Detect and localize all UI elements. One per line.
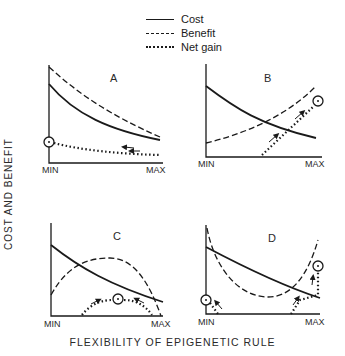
x-min-label: MIN <box>198 317 215 327</box>
panel-label: C <box>113 230 121 242</box>
diagram-panels: A MIN MAX B MIN MAX C MIN MAX <box>0 0 345 356</box>
panel-b: B MIN MAX <box>198 64 325 169</box>
x-min-label: MIN <box>198 159 215 169</box>
cost-curve <box>206 247 320 298</box>
panel-label: B <box>264 72 271 84</box>
x-axis-label: FLEXIBILITY OF EPIGENETIC RULE <box>0 336 345 348</box>
net-gain-curve-left <box>210 303 218 314</box>
arrow-icon <box>216 302 222 309</box>
y-axis-label: COST AND BENEFIT <box>3 138 14 250</box>
panel-label: D <box>268 232 276 244</box>
panel-d: D MIN MAX <box>198 225 325 327</box>
axes <box>49 65 163 163</box>
arrow-icon <box>269 135 277 142</box>
x-max-label: MAX <box>146 165 166 175</box>
x-max-label: MAX <box>305 159 325 169</box>
x-max-label: MAX <box>305 317 325 327</box>
panel-a: A MIN MAX <box>42 65 166 175</box>
cost-curve <box>49 84 160 140</box>
arrow-icon <box>312 277 313 285</box>
x-max-label: MAX <box>151 319 171 329</box>
axes <box>206 225 320 314</box>
arrow-icon <box>124 147 134 148</box>
x-min-label: MIN <box>44 319 61 329</box>
panel-c: C MIN MAX <box>44 223 171 329</box>
benefit-curve <box>49 67 160 137</box>
x-min-label: MIN <box>42 165 59 175</box>
net-gain-curve <box>54 143 160 155</box>
benefit-curve <box>51 258 161 316</box>
arrow-icon <box>295 112 303 119</box>
cost-curve <box>206 86 316 138</box>
arrow-icon <box>293 298 298 305</box>
benefit-curve <box>207 228 318 297</box>
panel-label: A <box>110 72 118 84</box>
axes <box>51 223 163 316</box>
